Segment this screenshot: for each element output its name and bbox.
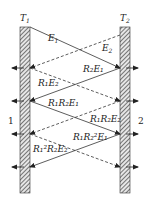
multiple-reflection-diagram: T1 T2 1 2 E1 E2 R₂E₁ R₁E₂ R₁R₂E₁ R₁R₂E₂ … — [0, 0, 153, 204]
label-r1e2: R₁E₂ — [37, 78, 59, 88]
medium-label-1: 1 — [8, 116, 14, 126]
left-wall — [20, 27, 30, 193]
label-r1r2e1: R₁R₂E₁ — [47, 98, 79, 108]
wall-label-t2: T2 — [120, 13, 130, 24]
label-r1r2e2: R₁R₂E₂ — [89, 114, 121, 124]
label-e1: E1 — [47, 33, 58, 44]
label-e2: E2 — [101, 43, 113, 54]
label-r2e1: R₂E₁ — [82, 64, 104, 74]
medium-label-2: 2 — [138, 116, 144, 126]
label-r1r2sq-e1: R₁R₂²E₁ — [72, 132, 108, 142]
right-wall — [120, 27, 130, 193]
label-r1sq-r2e2: R₁²R₂E₂ — [32, 144, 68, 154]
wall-label-t1: T1 — [20, 13, 30, 24]
